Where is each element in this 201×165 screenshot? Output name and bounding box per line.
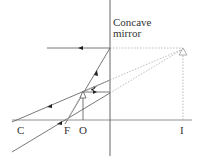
arrow-right-icon [93, 90, 97, 94]
ray-through-focus [65, 48, 110, 124]
label-c: C [17, 124, 24, 136]
arrow-left-icon [78, 46, 83, 50]
label-o: O [79, 124, 87, 136]
label-i: I [180, 124, 184, 136]
ray-diagram: Concave mirror C F O I [0, 0, 201, 165]
virtual-ray-1 [110, 49, 183, 80]
arrow-left-down-icon-2 [47, 104, 52, 108]
label-f: F [64, 124, 70, 136]
virtual-ray-2 [110, 49, 183, 93]
mirror-label-line2: mirror [113, 27, 141, 39]
image-arrow-head-icon [179, 48, 187, 55]
